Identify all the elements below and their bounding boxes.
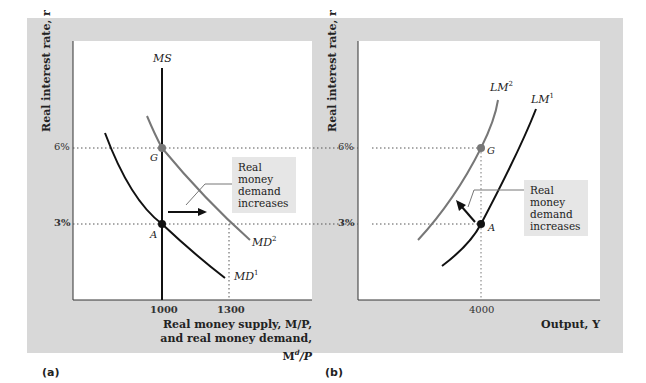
md2-sup: 2 — [272, 235, 276, 243]
tick-3pct-b: 3% — [338, 217, 354, 228]
annotation-a: Real money demand increases — [232, 157, 296, 213]
md1-sup: 1 — [254, 269, 258, 277]
md2-text: MD — [252, 236, 272, 249]
point-g-a — [158, 144, 166, 152]
point-a-label-b: A — [488, 222, 495, 233]
point-g-label-a: G — [150, 152, 158, 163]
md1-text: MD — [234, 270, 254, 283]
annotation-a-line1: Real money — [238, 161, 290, 185]
point-a-a — [158, 220, 166, 228]
annotation-b-line1: Real money — [530, 184, 582, 208]
y-axis-label-a: Real interest rate, r — [40, 10, 53, 132]
x-axis-label-a-line2: and real money demand, Md/P — [150, 332, 312, 364]
panel-label-b: (b) — [325, 366, 343, 379]
lm1-label: LM1 — [531, 92, 554, 106]
md1-label: MD1 — [234, 269, 259, 283]
lm1-sup: 1 — [550, 92, 554, 100]
x-axis-label-a: Real money supply, M/P, and real money d… — [150, 318, 312, 364]
tick-3pct-a: 3% — [54, 217, 70, 228]
lm2-label: LM2 — [490, 80, 513, 94]
point-g-label-b: G — [487, 145, 495, 156]
md2-label: MD2 — [252, 235, 277, 249]
ms-label: MS — [153, 52, 172, 65]
point-a-b — [477, 220, 485, 228]
tick-6pct-b: 6% — [338, 141, 354, 152]
tick-6pct-a: 6% — [54, 141, 70, 152]
tick-1000: 1000 — [150, 304, 178, 315]
panel-label-a: (a) — [42, 366, 59, 379]
x-axis-label-b: Output, Y — [480, 318, 600, 332]
x-axis-label-a-line1: Real money supply, M/P, — [150, 318, 312, 332]
annotation-b-line3: increases — [530, 220, 582, 232]
point-a-label-a: A — [150, 229, 157, 240]
lm2-sup: 2 — [509, 80, 513, 88]
xlabel2-end: /P — [300, 350, 312, 363]
tick-4000: 4000 — [469, 304, 494, 315]
lm1-text: LM — [531, 93, 550, 106]
plot-area-b — [358, 41, 600, 300]
annotation-a-line2: demand — [238, 185, 290, 197]
y-axis-label-b: Real interest rate, r — [326, 10, 339, 132]
xlabel2-text: and real money demand, M — [160, 332, 312, 363]
tick-1300: 1300 — [217, 304, 245, 315]
annotation-b-line2: demand — [530, 208, 582, 220]
annotation-a-line3: increases — [238, 197, 290, 209]
point-g-b — [477, 144, 485, 152]
lm2-text: LM — [490, 81, 509, 94]
annotation-b: Real money demand increases — [524, 180, 588, 236]
